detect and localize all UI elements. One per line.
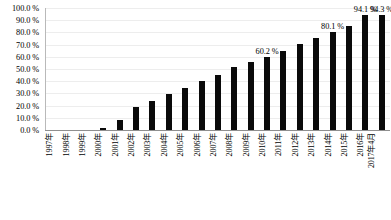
bar-slot: [128, 8, 144, 130]
x-tick-label: 2007年: [206, 133, 218, 156]
y-tick-label: 20.0 %: [16, 101, 39, 110]
bar[interactable]: [133, 107, 139, 130]
y-tick-label: 60.0 %: [16, 52, 39, 61]
x-tick-label: 2008年: [223, 133, 235, 156]
bar[interactable]: [362, 15, 368, 130]
bar[interactable]: [182, 88, 188, 130]
x-tick-label: 2011年: [272, 133, 284, 156]
x-tick-label: 2014年: [321, 133, 333, 156]
x-axis: 1997年1998年1999年2000年2001年2002年2003年2004年…: [46, 133, 390, 217]
x-tick-label: 2017年4月: [364, 133, 376, 168]
bar-slot: [341, 8, 357, 130]
bar[interactable]: [231, 67, 237, 130]
y-tick-label: 80.0 %: [16, 28, 39, 37]
x-tick-label: 2006年: [190, 133, 202, 156]
bar-slot: [275, 8, 291, 130]
bar[interactable]: [330, 32, 336, 130]
bar[interactable]: [117, 120, 123, 130]
x-tick-label: 2005年: [173, 133, 185, 156]
y-tick-label: 90.0 %: [16, 16, 39, 25]
bar[interactable]: [280, 51, 286, 130]
x-tick-label: 2003年: [141, 133, 153, 156]
bar[interactable]: [346, 26, 352, 130]
bar[interactable]: [313, 38, 319, 130]
bar-slot: [46, 8, 62, 130]
bar[interactable]: [264, 57, 270, 130]
x-label-slot: 2017年4月: [374, 133, 390, 217]
x-tick-label: 2010年: [255, 133, 267, 156]
bar-value-label: 94.3 %: [370, 5, 391, 14]
bar[interactable]: [149, 101, 155, 130]
bar-slot: 94.3 %: [374, 8, 390, 130]
bar[interactable]: [215, 75, 221, 131]
x-tick-label: 1997年: [42, 133, 54, 156]
bars-series: 60.2 %80.1 %94.1 %94.3 %: [46, 8, 390, 130]
y-axis: 100.0 %90.0 %80.0 %70.0 %60.0 %50.0 %40.…: [0, 8, 45, 130]
bar[interactable]: [379, 15, 385, 130]
bar-slot: [226, 8, 242, 130]
x-tick-label: 2012年: [288, 133, 300, 156]
x-tick-label: 2015年: [337, 133, 349, 156]
x-tick-label: 2002年: [124, 133, 136, 156]
bar-slot: 80.1 %: [324, 8, 340, 130]
y-tick-label: 50.0 %: [16, 65, 39, 74]
bar-slot: [112, 8, 128, 130]
bar-chart: 100.0 %90.0 %80.0 %70.0 %60.0 %50.0 %40.…: [0, 0, 391, 220]
x-tick-label: 2001年: [108, 133, 120, 156]
y-tick-label: 40.0 %: [16, 77, 39, 86]
bar-slot: [193, 8, 209, 130]
y-tick-label: 70.0 %: [16, 40, 39, 49]
bar[interactable]: [297, 44, 303, 130]
bar-slot: [292, 8, 308, 130]
bar[interactable]: [199, 81, 205, 130]
x-tick-label: 2004年: [157, 133, 169, 156]
bar-slot: [144, 8, 160, 130]
x-axis-line: [45, 130, 390, 131]
x-tick-label: 2009年: [239, 133, 251, 156]
bar-slot: 60.2 %: [259, 8, 275, 130]
bar-slot: [243, 8, 259, 130]
bar[interactable]: [248, 62, 254, 130]
y-tick-label: 30.0 %: [16, 89, 39, 98]
bar-slot: [161, 8, 177, 130]
bar-slot: 94.1 %: [357, 8, 373, 130]
bar-slot: [62, 8, 78, 130]
x-tick-label: 1999年: [75, 133, 87, 156]
bar-slot: [177, 8, 193, 130]
x-tick-label: 2013年: [304, 133, 316, 156]
plot-area: 60.2 %80.1 %94.1 %94.3 %: [46, 8, 390, 130]
x-tick-label: 2000年: [92, 133, 104, 156]
bar-slot: [210, 8, 226, 130]
x-tick-label: 1998年: [59, 133, 71, 156]
y-tick-label: 100.0 %: [12, 4, 39, 13]
bar-slot: [95, 8, 111, 130]
bar[interactable]: [166, 94, 172, 130]
bar-slot: [79, 8, 95, 130]
y-tick-label: 0.0 %: [20, 126, 39, 135]
y-tick-label: 10.0 %: [16, 113, 39, 122]
